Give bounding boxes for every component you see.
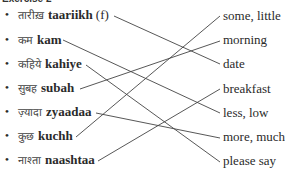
hindi-word: ज़्यादा [18, 106, 42, 119]
left-item-zyaadaa[interactable]: •ज़्यादाzyaadaa [4, 102, 92, 122]
line-subah-morning [80, 41, 220, 89]
right-item-breakfast[interactable]: breakfast [223, 79, 271, 99]
transliteration: taariikh [48, 7, 93, 22]
line-taariikh-date [114, 16, 220, 64]
bullet: • [4, 126, 18, 146]
right-item-please-say[interactable]: please say [223, 151, 276, 171]
hindi-word: नाश्ता [18, 154, 41, 167]
transliteration: kam [37, 32, 62, 47]
gender-marker: (f) [96, 7, 109, 22]
hindi-word: सुबह [18, 82, 37, 95]
line-kahiye-please-say [86, 65, 220, 162]
line-zyaadaa-more-much [96, 113, 220, 138]
line-kuchh-some-little [76, 16, 220, 137]
transliteration: subah [41, 80, 74, 95]
line-naashtaa-breakfast [98, 89, 220, 161]
bullet: • [4, 5, 18, 25]
left-item-kam[interactable]: •कमkam [4, 30, 62, 50]
hindi-word: कम [18, 34, 33, 47]
right-item-morning[interactable]: morning [223, 30, 267, 50]
left-item-kuchh[interactable]: •कुछkuchh [4, 126, 73, 146]
left-item-subah[interactable]: •सुबहsubah [4, 78, 74, 98]
bullet: • [4, 102, 18, 122]
left-item-kahiye[interactable]: •कहियेkahiye [4, 54, 82, 74]
bullet: • [4, 78, 18, 98]
hindi-word: कहिये [18, 58, 41, 71]
transliteration: zyaadaa [46, 104, 92, 119]
right-item-more-much[interactable]: more, much [223, 127, 285, 147]
transliteration: naashtaa [45, 152, 95, 167]
bullet: • [4, 30, 18, 50]
transliteration: kahiye [45, 56, 82, 71]
hindi-word: कुछ [18, 130, 34, 143]
left-item-naashtaa[interactable]: •नाश्ताnaashtaa [4, 150, 95, 170]
left-item-taariikh[interactable]: •तारीख़taariikh(f) [4, 5, 109, 25]
hindi-word: तारीख़ [18, 9, 44, 22]
right-item-some-little[interactable]: some, little [223, 6, 281, 26]
right-item-date[interactable]: date [223, 54, 245, 74]
exercise-header: Exercise 2 [2, 0, 52, 4]
bullet: • [4, 150, 18, 170]
bullet: • [4, 54, 18, 74]
right-item-less-low[interactable]: less, low [223, 103, 269, 123]
transliteration: kuchh [38, 128, 73, 143]
